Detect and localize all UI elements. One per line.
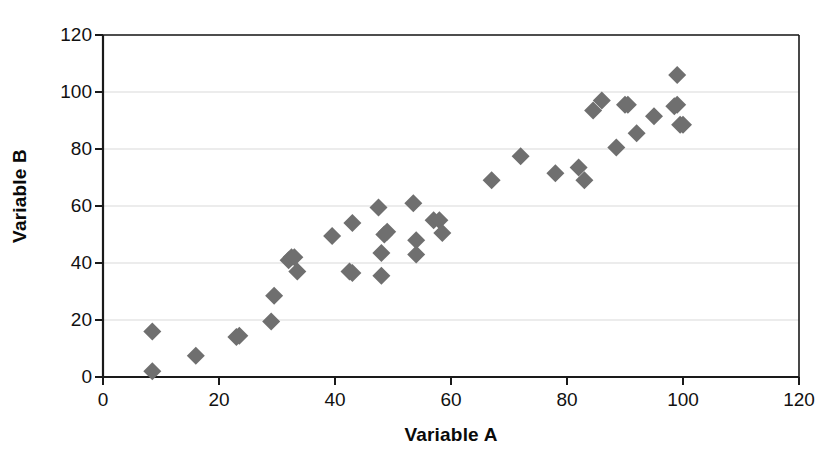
x-axis-tick-label: 60 [440, 389, 461, 411]
data-point-marker [262, 312, 280, 330]
data-point-marker [372, 267, 390, 285]
data-point-marker [143, 322, 161, 340]
data-point-marker [370, 198, 388, 216]
data-point-marker [483, 171, 501, 189]
data-point-marker [404, 194, 422, 212]
x-axis-tick-label: 80 [556, 389, 577, 411]
data-point-marker [607, 139, 625, 157]
data-point-marker [512, 147, 530, 165]
data-point-marker [187, 347, 205, 365]
data-point-marker [668, 66, 686, 84]
x-axis-tick-label: 100 [667, 389, 699, 411]
data-point-marker [407, 231, 425, 249]
data-point-marker [372, 244, 390, 262]
x-axis-tick-label: 120 [783, 389, 815, 411]
data-point-marker [674, 116, 692, 134]
data-point-marker [628, 124, 646, 142]
x-axis-tick-label: 0 [98, 389, 109, 411]
data-point-marker [619, 96, 637, 114]
data-point-marker [265, 287, 283, 305]
x-axis-title: Variable A [103, 424, 799, 446]
data-point-marker [343, 214, 361, 232]
plot-area [0, 0, 838, 466]
x-axis-tick-label: 20 [208, 389, 229, 411]
data-point-marker [546, 164, 564, 182]
data-point-marker [645, 107, 663, 125]
scatter-chart: Variable B 020406080100120 0204060801001… [0, 0, 838, 466]
x-axis-title-text: Variable A [404, 424, 497, 445]
x-axis-tick-label: 40 [324, 389, 345, 411]
data-point-marker [323, 227, 341, 245]
